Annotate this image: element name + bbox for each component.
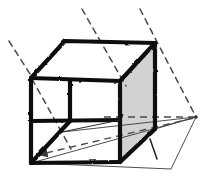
cube-perspective-diagram: [0, 0, 211, 178]
figure-canvas: [0, 0, 211, 178]
vanishing-point-marker: [194, 115, 197, 118]
edge-interior-horizontal: [31, 120, 120, 121]
edge-bottom-front: [31, 162, 120, 163]
